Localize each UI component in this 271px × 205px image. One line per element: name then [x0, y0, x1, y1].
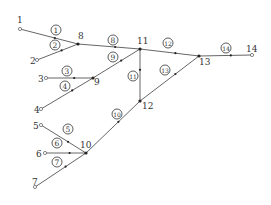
node-2: 2	[30, 56, 39, 66]
pipe-label-6: 6	[52, 138, 62, 148]
pipe-label-text: 14	[222, 45, 230, 52]
pipe-label-4: 4	[60, 81, 70, 91]
flow-marker-icon	[174, 52, 176, 54]
pipe-line	[199, 55, 252, 56]
node-label: 12	[142, 101, 153, 111]
node-9: 9	[91, 76, 100, 87]
pipe-label-7: 7	[52, 157, 62, 167]
node-1: 1	[17, 15, 23, 31]
node-7: 7	[32, 177, 38, 189]
flow-marker-icon	[120, 60, 122, 62]
flow-marker-icon	[67, 141, 69, 143]
pipe-label-1: 1	[51, 25, 61, 35]
node-12: 12	[138, 99, 153, 111]
node-label: 14	[246, 44, 258, 54]
pipe-label-10: 10	[112, 109, 122, 119]
open-node-icon	[44, 76, 47, 79]
node-label: 8	[78, 31, 84, 41]
pipe-label-text: 1	[54, 26, 59, 35]
node-label: 9	[94, 77, 100, 87]
open-node-icon	[39, 107, 42, 110]
flow-marker-icon	[61, 49, 63, 51]
node-label: 6	[36, 149, 42, 159]
node-13: 13	[197, 54, 210, 67]
open-node-icon	[18, 27, 21, 30]
flow-marker-icon	[69, 152, 71, 154]
flow-marker-icon	[65, 166, 67, 168]
pipe-line	[140, 56, 199, 101]
pipe-label-text: 12	[164, 40, 172, 47]
pipe-line	[78, 44, 140, 49]
pipe-label-text: 6	[55, 139, 60, 148]
pipe-label-13: 13	[160, 65, 170, 75]
pipe-11	[139, 49, 141, 101]
open-node-icon	[43, 151, 46, 154]
open-node-icon	[35, 58, 38, 61]
node-3: 3	[38, 74, 48, 84]
pipe-label-9: 9	[108, 52, 118, 62]
pipe-line	[140, 49, 199, 56]
flow-marker-icon	[54, 37, 56, 39]
flow-marker-icon	[73, 77, 75, 79]
pipe-label-8: 8	[108, 35, 118, 45]
pipe-label-3: 3	[62, 66, 72, 76]
flow-marker-icon	[139, 69, 141, 71]
pipe-8	[78, 44, 140, 49]
node-label: 5	[33, 121, 39, 131]
pipe-label-5: 5	[63, 124, 73, 134]
node-label: 13	[199, 57, 211, 67]
flow-marker-icon	[114, 46, 116, 48]
pipe-label-text: 2	[53, 41, 58, 50]
pipe-label-text: 13	[161, 67, 169, 74]
pipe-label-text: 3	[65, 67, 70, 76]
flow-marker-icon	[117, 121, 119, 123]
node-11: 11	[137, 36, 148, 51]
pipe-label-14: 14	[221, 43, 231, 53]
junction-node-icon	[138, 47, 141, 50]
pipe-10	[86, 101, 140, 153]
node-label: 4	[34, 105, 40, 115]
pipe-13	[140, 56, 199, 101]
pipe-1	[20, 29, 78, 44]
node-label: 1	[17, 15, 23, 25]
pipe-label-text: 5	[66, 125, 71, 134]
flow-marker-icon	[71, 89, 73, 91]
pipe-3	[46, 77, 93, 79]
pipe-label-text: 4	[63, 82, 68, 91]
pipe-6	[45, 152, 86, 154]
junction-node-icon	[84, 151, 87, 154]
flow-marker-icon	[230, 54, 232, 56]
node-5: 5	[33, 121, 43, 131]
node-label: 2	[30, 56, 36, 66]
node-6: 6	[36, 149, 47, 159]
pipe-label-text: 9	[111, 53, 116, 62]
pipe-label-11: 11	[128, 71, 138, 81]
node-label: 3	[38, 74, 44, 84]
node-label: 10	[80, 140, 92, 150]
node-label: 7	[32, 177, 38, 187]
pipe-line	[20, 29, 78, 44]
pipe-label-text: 10	[113, 111, 121, 118]
flow-marker-icon	[174, 73, 176, 75]
node-4: 4	[34, 105, 43, 115]
pipe-label-12: 12	[163, 38, 173, 48]
node-8: 8	[76, 31, 84, 46]
pipe-label-text: 8	[111, 36, 116, 45]
pipe-label-text: 7	[55, 158, 60, 167]
node-label: 11	[137, 36, 148, 46]
pipe-network-diagram: 1234567891011121314 1234567891011121314	[0, 0, 271, 205]
labels-layer: 1234567891011121314	[50, 25, 231, 167]
pipe-label-text: 11	[129, 73, 137, 80]
pipe-label-2: 2	[50, 40, 60, 50]
pipe-12	[140, 49, 199, 56]
junction-node-icon	[76, 42, 79, 45]
open-node-icon	[39, 123, 42, 126]
pipe-line	[86, 101, 140, 153]
node-10: 10	[80, 140, 92, 155]
